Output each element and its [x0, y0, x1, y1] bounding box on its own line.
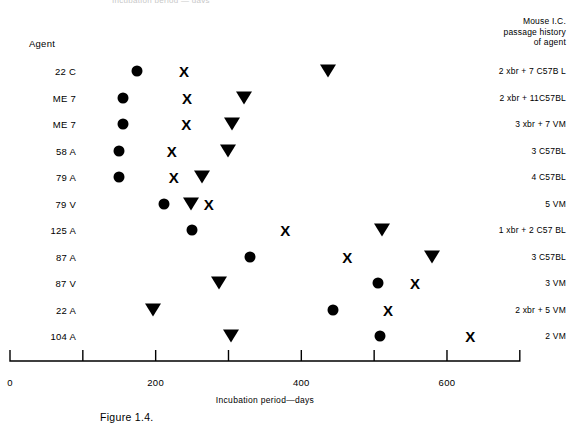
x-axis — [0, 0, 574, 430]
figure-caption: Figure 1.4. — [100, 411, 154, 423]
figure-1-4: Incubation period — days Agent Mouse I.C… — [0, 0, 574, 430]
x-tick-label: 200 — [147, 377, 164, 388]
x-tick-label: 0 — [7, 377, 13, 388]
x-tick-label: 600 — [439, 377, 456, 388]
x-tick-label: 400 — [293, 377, 310, 388]
x-axis-title: Incubation period—days — [0, 395, 530, 405]
